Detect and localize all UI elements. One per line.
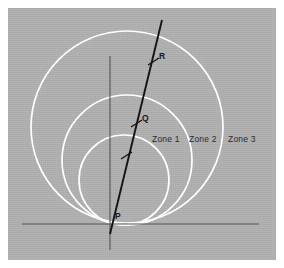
label-point-r: R — [159, 51, 165, 61]
tick-inner-circle — [121, 152, 132, 159]
circle-zone-2 — [62, 95, 192, 225]
circle-zone-3 — [31, 31, 223, 223]
label-point-p: P — [115, 211, 121, 221]
label-zone-3: Zone 3 — [228, 134, 256, 144]
secant-line — [110, 20, 162, 234]
label-zone-1: Zone 1 — [152, 134, 180, 144]
figure-root: P Q R Zone 1 Zone 2 Zone 3 — [0, 0, 284, 268]
label-zone-2: Zone 2 — [189, 134, 217, 144]
tick-point-r — [148, 58, 159, 65]
label-point-q: Q — [142, 113, 149, 123]
